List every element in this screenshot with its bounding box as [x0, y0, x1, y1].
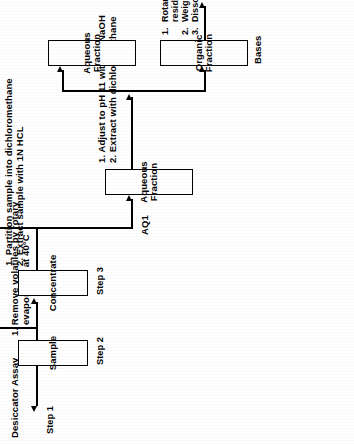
flow-line-split2-down [131, 90, 205, 92]
box-aqueous-fraction-2: Aqueous Fraction [48, 40, 136, 66]
box-organic-fraction-2: Organic Fraction [160, 40, 248, 66]
organic-2-instructions: 1. Rotary evaporate to a residue at 40°C… [160, 0, 200, 35]
flow-line-split2-up [62, 90, 132, 92]
box-sample: Sample [18, 340, 88, 366]
arrowhead-to-aqueous-1 [126, 195, 132, 201]
flow-line-to-bioassay [0, 327, 36, 329]
flow-line-aqueous-1-out [131, 97, 133, 169]
step-1-label: Step 1 [45, 406, 57, 434]
node-label-bases: Bases [253, 36, 264, 65]
flow-line-concentrate-out [36, 228, 38, 270]
step-3-label: Step 3 [95, 267, 107, 295]
box-aqueous-fraction-1: Aqueous Fraction [105, 169, 193, 195]
arrowhead-to-aqueous-2 [57, 66, 63, 72]
box-concentrate: Concentrate [18, 270, 88, 296]
flow-line-organic-2-out [204, 6, 206, 40]
flow-line-split-up [0, 227, 38, 229]
scanned-flowchart-page: Desiccator Assay Step 1 Sample Step 2 1.… [0, 0, 354, 444]
arrowhead-aqueous-1-out [126, 94, 132, 100]
flow-line-to-aqueous-2 [62, 70, 64, 92]
step-3-instructions: 1. Partition sample into dichloromethane… [4, 78, 25, 266]
flow-line-to-organic-2 [204, 70, 206, 92]
flow-line-to-aqueous-1 [131, 199, 133, 229]
flow-line-sample-to-concentrate [36, 302, 38, 340]
flow-line-sample-to-assay [36, 366, 38, 406]
flow-line-split-down [36, 227, 132, 229]
step-2-label: Step 2 [95, 337, 107, 365]
arrowhead-to-concentrate [31, 298, 37, 304]
diagram-title: Desiccator Assay [10, 358, 21, 438]
arrowhead-to-assay [31, 406, 37, 412]
node-label-aq1: AQ1 [140, 215, 151, 235]
flowchart-stage: Desiccator Assay Step 1 Sample Step 2 1.… [0, 0, 354, 444]
